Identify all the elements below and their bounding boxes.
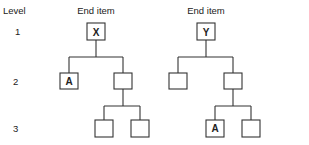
tree-y: End item Y A [169,5,260,137]
node-y-l3-a-label: A [211,123,218,134]
node-x-l3-b [131,120,149,137]
tree-x: End item X A [60,5,149,137]
tree-x-title: End item [77,5,115,16]
node-y-l2-a [169,73,187,89]
node-x-l2-b [114,73,132,89]
level-header: Level [3,5,26,16]
node-y-l3-b [242,120,260,137]
level-2-label: 2 [13,76,18,87]
tree-y-title: End item [187,5,225,16]
level-3-label: 3 [13,123,18,134]
node-x-root-label: X [93,27,100,38]
node-x-l3-a [95,120,113,137]
node-x-l2-a-label: A [65,76,72,87]
node-y-l2-b [224,73,242,89]
level-1-label: 1 [15,26,20,37]
bill-of-materials-diagram: Level 1 2 3 End item X A End item [0,0,309,145]
node-y-root-label: Y [203,27,210,38]
